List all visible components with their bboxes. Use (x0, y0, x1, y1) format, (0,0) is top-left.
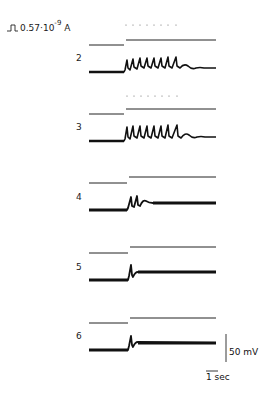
stimulus-amplitude-label: 0.57·10-9 A (20, 21, 70, 33)
voltage-scale-label: 50 mV (229, 347, 258, 357)
trace-label-6: 6 (76, 331, 82, 341)
current-step-5 (89, 247, 216, 253)
current-step-6 (89, 318, 216, 323)
trace-label-3: 3 (76, 122, 82, 132)
trace-label-4: 4 (76, 192, 82, 202)
current-step-4 (89, 177, 216, 183)
current-step-3 (89, 109, 216, 114)
stim-markers-2 (125, 24, 176, 25)
trace-group-2 (89, 24, 216, 72)
trace-label-5: 5 (76, 262, 82, 272)
time-scale-label: 1 sec (206, 372, 230, 382)
trace-label-2: 2 (76, 53, 82, 63)
trace-group-3 (89, 95, 216, 141)
stim-unit: A (64, 23, 70, 33)
trace-group-5 (89, 247, 216, 280)
current-step-2 (89, 40, 216, 45)
trace-group-6 (89, 318, 216, 350)
recording-figure (0, 0, 269, 400)
stim-exponent: -9 (54, 19, 61, 27)
stim-markers-3 (126, 95, 177, 96)
square-pulse-icon (7, 25, 18, 31)
voltage-trace-2 (89, 57, 216, 72)
stim-amplitude: 0.57·10 (20, 23, 54, 33)
trace-group-4 (89, 177, 216, 210)
voltage-trace-3 (89, 125, 216, 141)
